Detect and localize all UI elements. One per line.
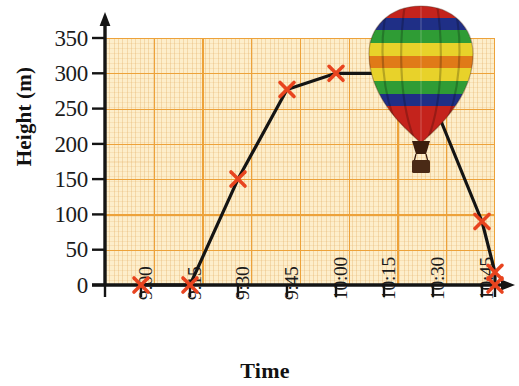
y-tick-label: 100 xyxy=(54,203,88,226)
y-axis-title: Height (m) xyxy=(12,57,37,177)
x-tick-label: 10:30 xyxy=(427,257,449,300)
x-tick-label: 9:00 xyxy=(135,267,157,300)
x-tick-label: 9:45 xyxy=(281,267,303,300)
balloon-basket xyxy=(412,160,430,173)
x-tick-label: 9:15 xyxy=(184,267,206,300)
y-tick-label: 200 xyxy=(54,133,88,156)
x-tick-label: 10:00 xyxy=(330,257,352,300)
balloon-throat xyxy=(412,141,430,154)
y-tick-label: 350 xyxy=(54,27,88,50)
x-axis-title: Time xyxy=(195,358,335,384)
y-tick-label: 0 xyxy=(77,274,88,297)
balloon-envelope xyxy=(365,2,477,152)
y-tick-label: 150 xyxy=(54,168,88,191)
x-tick-label: 10:45 xyxy=(476,257,498,300)
y-axis-ticks xyxy=(92,38,105,285)
hot-air-balloon xyxy=(365,2,477,180)
y-tick-label: 250 xyxy=(54,97,88,120)
x-tick-label: 9:30 xyxy=(232,267,254,300)
plot-right-border xyxy=(494,38,495,285)
x-tick-label: 10:15 xyxy=(378,257,400,300)
chart-container: 350 300 250 200 150 100 50 0 9:00 9:15 9… xyxy=(0,0,519,386)
y-tick-label: 300 xyxy=(54,62,88,85)
y-tick-label: 50 xyxy=(66,238,88,261)
